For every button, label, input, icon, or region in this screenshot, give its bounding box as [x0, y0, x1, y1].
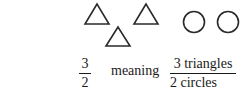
left-fraction-denominator: 2 — [82, 76, 89, 87]
connector-word: meaning — [111, 64, 159, 78]
fraction-bar — [170, 73, 236, 74]
triangle-icon — [134, 4, 158, 24]
right-fraction-denominator: 2 circles — [170, 76, 217, 87]
left-fraction-numerator: 3 — [82, 57, 89, 71]
circle-icon — [218, 12, 239, 33]
circle-icon — [184, 12, 205, 33]
triangle-icon — [85, 4, 109, 24]
fraction-bar — [79, 73, 91, 74]
right-fraction-numerator: 3 triangles — [174, 57, 233, 71]
triangle-icon — [106, 27, 130, 46]
shapes-diagram — [0, 0, 248, 50]
right-fraction: 3 triangles 2 circles — [170, 57, 236, 87]
left-fraction: 3 2 — [79, 57, 91, 87]
